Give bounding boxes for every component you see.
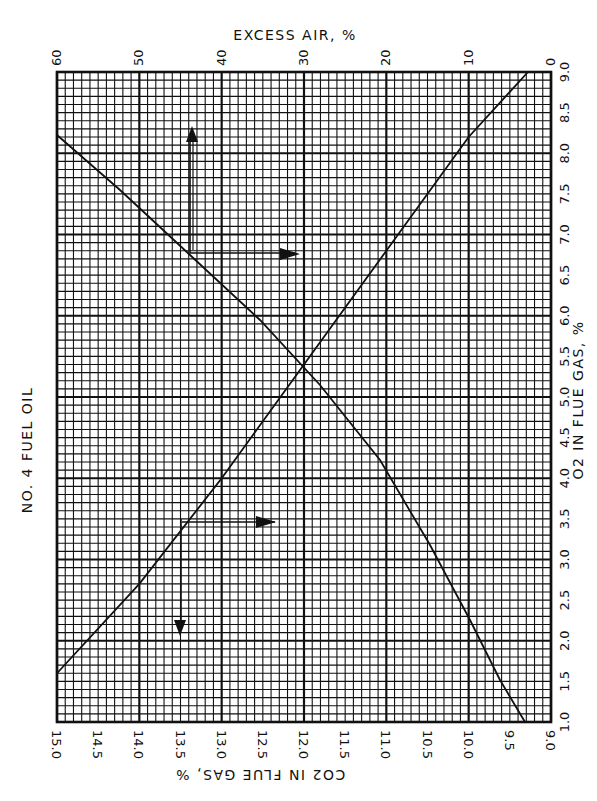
top-tick-label: 20 [378, 49, 393, 66]
bottom-tick-label: 14.5 [90, 730, 105, 759]
bottom-tick-label: 12.0 [296, 730, 311, 759]
bottom-tick-label: 13.5 [173, 730, 188, 759]
arrow-head-icon [174, 620, 186, 636]
top-tick-label: 40 [214, 49, 229, 66]
top-tick-label: 10 [461, 49, 476, 66]
right-tick-label: 7.0 [557, 224, 572, 245]
right-tick-label: 8.5 [557, 102, 572, 123]
bottom-tick-label: 10.5 [420, 730, 435, 759]
bottom-tick-label: 10.0 [461, 730, 476, 759]
top-tick-label: 60 [49, 49, 64, 66]
top-tick-label: 30 [296, 49, 311, 66]
bottom-tick-label: 12.5 [255, 730, 270, 759]
right-tick-label: 6.5 [557, 265, 572, 286]
top-axis-ticks: 6050403020100 [49, 49, 558, 66]
arrow-head-icon [256, 516, 276, 528]
right-tick-label: 9.0 [557, 62, 572, 83]
right-tick-label: 2.5 [557, 590, 572, 611]
bottom-tick-label: 14.0 [131, 730, 146, 759]
co2-curve [57, 135, 525, 722]
chart-title: NO. 4 FUEL OIL [19, 387, 35, 514]
bottom-tick-label: 13.0 [214, 730, 229, 759]
grid-paper [57, 72, 551, 722]
right-tick-label: 1.0 [557, 712, 572, 733]
bottom-axis-ticks: 15.014.514.013.513.012.512.011.511.010.5… [49, 730, 558, 759]
top-tick-label: 50 [131, 49, 146, 66]
top-axis-label: EXCESS AIR, % [233, 27, 356, 43]
bottom-tick-label: 11.5 [337, 730, 352, 759]
arrow-head-icon [280, 248, 300, 260]
right-axis-label: O2 IN FLUE GAS, % [570, 320, 586, 479]
right-tick-label: 3.0 [557, 549, 572, 570]
right-tick-label: 7.5 [557, 184, 572, 205]
top-tick-label: 0 [543, 58, 558, 66]
right-tick-label: 2.0 [557, 630, 572, 651]
right-tick-label: 8.0 [557, 143, 572, 164]
bottom-tick-label: 9.5 [502, 730, 517, 751]
right-tick-label: 3.5 [557, 509, 572, 530]
right-tick-label: 1.5 [557, 671, 572, 692]
chart: EXCESS AIR, % 6050403020100 9.08.58.07.5… [0, 0, 597, 801]
bottom-tick-label: 9.0 [543, 730, 558, 751]
bottom-tick-label: 15.0 [49, 730, 64, 759]
bottom-tick-label: 11.0 [378, 730, 393, 759]
bottom-axis-label: CO2 IN FLUE GAS, % [175, 767, 345, 783]
